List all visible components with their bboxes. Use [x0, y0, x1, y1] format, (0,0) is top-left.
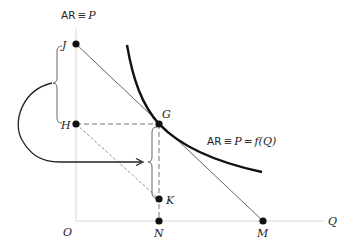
- label-m: M: [256, 227, 269, 240]
- brace-gk: [148, 127, 157, 198]
- point-j: [72, 40, 79, 47]
- demand-diagram: AR≡P Q O AR≡P=f(Q) J H G K N M: [0, 0, 349, 250]
- curve-label: AR≡P=f(Q): [207, 135, 276, 148]
- point-m: [259, 217, 266, 224]
- label-h: H: [60, 119, 71, 132]
- x-axis-label: Q: [328, 215, 337, 228]
- transfer-arrow: [18, 83, 141, 162]
- y-axis-label: AR≡P: [61, 9, 96, 22]
- label-j: J: [60, 39, 67, 52]
- brace-jh: [53, 46, 62, 123]
- point-h: [72, 120, 79, 127]
- point-k: [155, 195, 162, 202]
- label-n: N: [153, 227, 164, 240]
- demand-curve: [127, 45, 262, 172]
- label-k: K: [165, 194, 175, 207]
- origin-label: O: [63, 226, 72, 239]
- point-g: [155, 120, 162, 127]
- point-n: [155, 217, 162, 224]
- label-g: G: [162, 108, 171, 121]
